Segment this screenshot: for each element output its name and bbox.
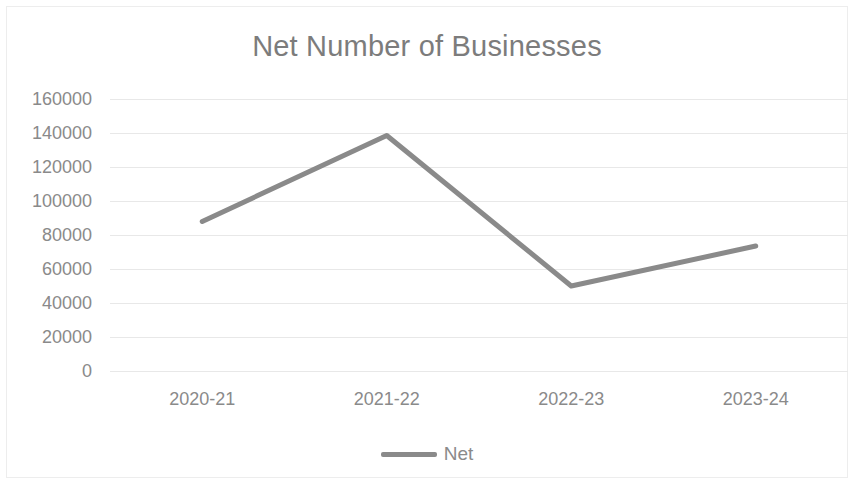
legend-label-net: Net [444,444,474,464]
chart-container: Net Number of Businesses 160000140000120… [0,0,854,490]
x-axis-tick-label: 2023-24 [723,388,789,410]
gridline [110,371,848,372]
y-axis-tick-label: 100000 [0,192,92,210]
x-axis-tick-labels: 2020-212021-222022-232023-24 [110,388,848,414]
y-axis-tick-label: 40000 [0,294,92,312]
x-axis-tick-label: 2021-22 [354,388,420,410]
plot-area [110,99,848,371]
y-axis-tick-label: 80000 [0,226,92,244]
x-axis-tick-label: 2022-23 [538,388,604,410]
legend-line-swatch-net [381,452,437,457]
chart-legend: Net [0,440,854,468]
series-line-net [110,99,848,371]
y-axis-tick-label: 140000 [0,124,92,142]
y-axis-tick-label: 0 [0,362,92,380]
chart-title: Net Number of Businesses [0,26,854,66]
y-axis-tick-labels: 1600001400001200001000008000060000400002… [0,99,100,371]
y-axis-tick-label: 160000 [0,90,92,108]
y-axis-tick-label: 120000 [0,158,92,176]
series-polyline-net [202,136,756,286]
y-axis-tick-label: 20000 [0,328,92,346]
y-axis-tick-label: 60000 [0,260,92,278]
x-axis-tick-label: 2020-21 [169,388,235,410]
